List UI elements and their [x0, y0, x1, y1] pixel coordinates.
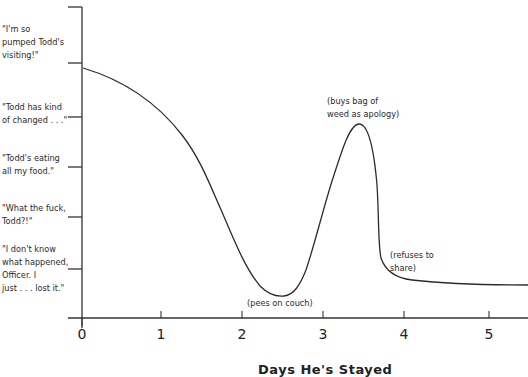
- y-label-excited: "I'm so pumped Todd's visiting!": [2, 23, 72, 62]
- x-tick-label-4: 4: [400, 326, 409, 342]
- annotation-pees-on-couch: (pees on couch): [247, 297, 313, 310]
- x-tick-label-5: 5: [485, 326, 494, 342]
- y-label-changed: "Todd has kind of changed . . .": [2, 101, 72, 127]
- x-tick-label-2: 2: [238, 326, 247, 342]
- annotation-weed-apology: (buys bag of weed as apology): [327, 95, 399, 121]
- annotation-refuses-to-share: (refuses to share): [390, 249, 434, 275]
- y-label-eating-food: "Todd's eating all my food.": [2, 152, 72, 178]
- x-tick-label-1: 1: [157, 326, 166, 342]
- y-label-lost-it: "I don't know what happened, Officer. I …: [2, 243, 72, 295]
- x-tick-label-3: 3: [319, 326, 328, 342]
- mood-curve: [83, 68, 528, 296]
- x-axis-title: Days He's Stayed: [258, 362, 392, 377]
- x-tick-label-0: 0: [78, 326, 87, 342]
- y-label-what-the: "What the fuck, Todd?!": [2, 202, 72, 228]
